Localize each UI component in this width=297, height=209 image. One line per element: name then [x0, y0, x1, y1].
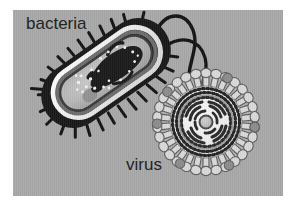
illustration-panel: bacteria virus	[13, 10, 283, 196]
enveloped-virus-cross-section	[152, 68, 260, 175]
virus-core	[200, 116, 213, 129]
bacteria-label: bacteria	[26, 15, 86, 32]
virus-label: virus	[126, 156, 162, 173]
figure-root: bacteria virus	[0, 0, 297, 209]
